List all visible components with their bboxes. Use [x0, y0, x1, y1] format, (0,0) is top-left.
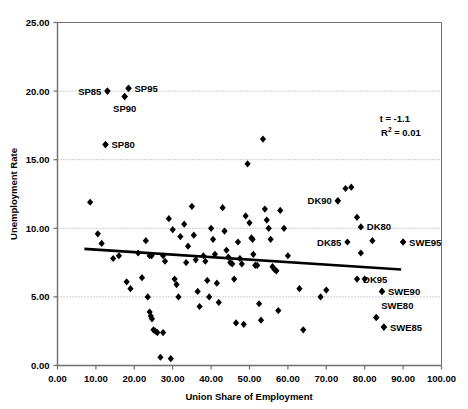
point-label-dk90: DK90 [308, 195, 332, 206]
point-label-swe90: SWE90 [388, 286, 420, 297]
x-tick-label: 60.00 [276, 373, 300, 384]
y-tick-label: 10.00 [26, 223, 50, 234]
x-tick-label: 90.00 [391, 373, 415, 384]
point-label-swe85: SWE85 [390, 322, 423, 333]
x-tick-label: 70.00 [314, 373, 338, 384]
x-tick-label: 40.00 [199, 373, 223, 384]
point-label-dk80: DK80 [367, 221, 391, 232]
y-tick-label: 20.00 [26, 86, 50, 97]
x-tick-label: 0.00 [48, 373, 67, 384]
point-label-sp85: SP85 [78, 86, 102, 97]
t-stat-text: t = -1.1 [380, 113, 411, 124]
x-tick-label: 50.00 [238, 373, 262, 384]
point-label-dk95: DK95 [363, 274, 388, 285]
x-tick-label: 30.00 [161, 373, 185, 384]
y-tick-label: 5.00 [31, 291, 50, 302]
x-tick-label: 100.00 [427, 373, 456, 384]
y-axis-title: Unemployment Rate [8, 148, 19, 240]
y-tick-label: 25.00 [26, 17, 50, 28]
chart-background [0, 0, 468, 409]
point-label-sp90: SP90 [113, 103, 136, 114]
x-tick-label: 80.00 [353, 373, 377, 384]
point-label-sp95: SP95 [135, 83, 159, 94]
point-label-swe95: SWE95 [409, 237, 442, 248]
point-label-dk85: DK85 [317, 237, 342, 248]
point-label-sp80: SP80 [112, 139, 135, 150]
r-squared-text: R2 = 0.01 [381, 126, 422, 138]
r-squared-value: = 0.01 [392, 127, 422, 138]
x-tick-label: 10.00 [84, 373, 108, 384]
x-tick-label: 20.00 [122, 373, 146, 384]
y-tick-label: 0.00 [31, 360, 50, 371]
x-axis-title: Union Share of Employment [185, 391, 313, 402]
scatter-chart: 0.005.0010.0015.0020.0025.00 0.0010.0020… [0, 0, 468, 409]
chart-canvas: 0.005.0010.0015.0020.0025.00 0.0010.0020… [0, 0, 468, 409]
point-label-swe80: SWE80 [381, 300, 413, 311]
y-tick-label: 15.00 [26, 154, 50, 165]
